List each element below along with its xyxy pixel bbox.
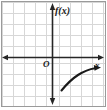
- coordinate-graph-figure: f(x) O x: [0, 0, 107, 110]
- x-axis-label: x: [94, 60, 100, 70]
- y-axis-label: f(x): [55, 5, 70, 17]
- graph-background: [0, 0, 107, 110]
- origin-label: O: [43, 59, 50, 69]
- graph-canvas: f(x) O x: [0, 0, 107, 110]
